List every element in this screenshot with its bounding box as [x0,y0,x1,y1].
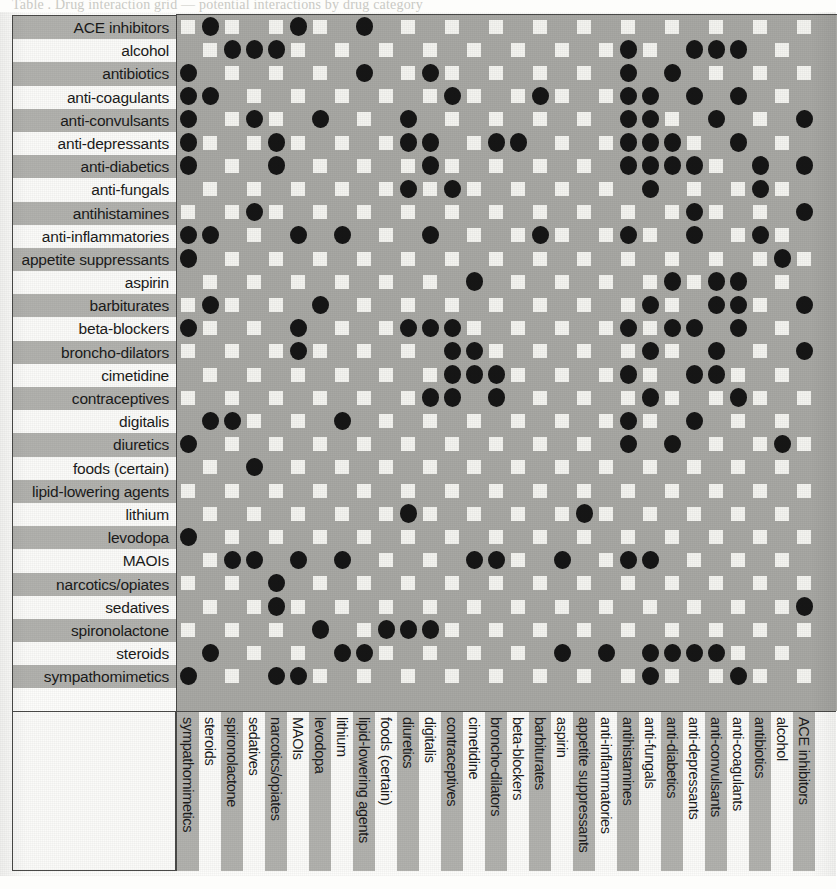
interaction-dot-cell [683,201,705,224]
checker-square [335,43,349,57]
checker-square [731,414,745,428]
checker-square [577,298,591,312]
checker-square [269,20,283,34]
interaction-dot-icon [708,296,725,315]
empty-cell [771,409,793,432]
interaction-dot-icon [708,110,725,129]
empty-cell [441,154,463,177]
empty-cell [771,595,793,618]
checker-square [203,43,217,57]
interaction-dot-cell [265,595,287,618]
empty-cell [485,433,507,456]
checker-square [401,298,415,312]
interaction-dot-cell [793,340,815,363]
column-label-text: diuretics [401,717,416,768]
empty-cell [375,317,397,340]
checker-square [489,576,503,590]
empty-cell [331,502,353,525]
interaction-dot-cell [177,665,199,688]
interaction-dot-cell [177,108,199,131]
column-label: foods (certain) [375,712,397,871]
empty-cell [661,665,683,688]
interaction-dot-icon [180,87,197,106]
interaction-dot-icon [466,342,483,361]
checker-square [555,228,569,242]
interaction-dot-cell [309,108,331,131]
checker-square [269,391,283,405]
checker-square [753,530,767,544]
empty-cell [375,641,397,664]
checker-square [753,344,767,358]
checker-square [313,66,327,80]
checker-square [445,205,459,219]
interaction-dot-icon [224,551,241,570]
checker-square [797,669,811,683]
empty-cell [375,38,397,61]
interaction-dot-icon [642,133,659,152]
interaction-dot-cell [639,154,661,177]
empty-cell [529,247,551,270]
checker-square [379,646,393,660]
interaction-dot-cell [397,131,419,154]
interaction-dot-cell [639,386,661,409]
empty-cell [661,479,683,502]
interaction-dot-cell [485,386,507,409]
checker-square [599,553,613,567]
checker-square [401,344,415,358]
empty-cell [705,572,727,595]
empty-cell [617,15,639,38]
interaction-dot-cell [683,224,705,247]
checker-square [775,414,789,428]
checker-square [797,20,811,34]
empty-cell [661,247,683,270]
checker-square [467,89,481,103]
checker-square [401,391,415,405]
interaction-dot-cell [441,363,463,386]
interaction-dot-icon [422,156,439,175]
empty-cell [485,61,507,84]
row-label: sedatives [13,596,176,619]
empty-cell [595,224,617,247]
checker-square [599,228,613,242]
checker-square [555,507,569,521]
interaction-dot-icon [620,226,637,245]
empty-cell [331,85,353,108]
interaction-dot-icon [422,226,439,245]
checker-square [709,20,723,34]
empty-cell [243,177,265,200]
empty-cell [683,595,705,618]
empty-cell [727,409,749,432]
empty-cell [397,665,419,688]
interaction-dot-cell [683,409,705,432]
empty-cell [353,386,375,409]
checker-square [467,600,481,614]
empty-cell [221,108,243,131]
empty-cell [529,572,551,595]
checker-square [555,89,569,103]
empty-cell [639,224,661,247]
interaction-dot-cell [353,641,375,664]
interaction-dot-icon [268,156,285,175]
checker-square [753,484,767,498]
empty-cell [353,201,375,224]
interaction-dot-cell [727,131,749,154]
checker-square [467,507,481,521]
column-label-text: anti-diabetics [665,717,680,798]
checker-square [753,252,767,266]
empty-cell [661,386,683,409]
matrix-plot-area [176,14,837,711]
empty-cell [243,85,265,108]
empty-cell [639,502,661,525]
checker-square [687,600,701,614]
interaction-dot-icon [532,87,549,106]
checker-square [555,368,569,382]
checker-square [511,507,525,521]
interaction-dot-cell [309,293,331,316]
column-label-text: levodopa [313,717,328,773]
checker-square [357,344,371,358]
cut-off-caption: Table . Drug interaction grid — potentia… [0,0,836,12]
interaction-dot-icon [268,40,285,59]
empty-cell [243,363,265,386]
interaction-dot-icon [356,64,373,83]
checker-square [731,646,745,660]
